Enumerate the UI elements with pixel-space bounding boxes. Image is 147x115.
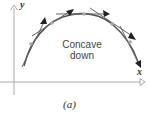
annotation-line-1: Concave [52, 39, 112, 50]
annotation-line-2: down [52, 50, 112, 61]
tangency-point [29, 42, 33, 46]
arrowhead-icon [103, 10, 110, 17]
tangency-point [128, 40, 132, 44]
tangency-point [82, 12, 86, 16]
x-axis-arrow-icon [140, 79, 145, 86]
concavity-annotation: Concave down [52, 39, 112, 61]
tangent-line [22, 22, 44, 67]
figure-caption: (a) [63, 98, 76, 110]
tangency-point [50, 21, 54, 25]
tangent-line [90, 8, 132, 36]
y-axis-label: y [20, 0, 24, 10]
tangent-line [120, 26, 140, 66]
tangency-point [110, 22, 114, 26]
arrowhead-icon [40, 17, 47, 24]
arrowhead-icon [128, 32, 136, 40]
x-axis-label: x [137, 66, 142, 77]
